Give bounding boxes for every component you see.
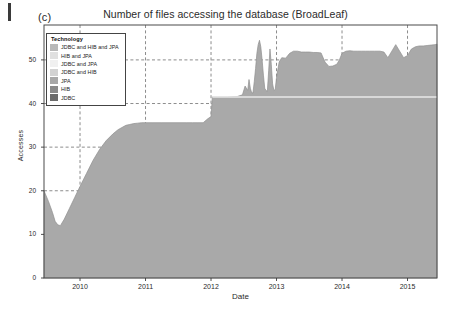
x-tick-label: 2012 — [194, 283, 228, 290]
legend-item-label: JDBC and JPA — [61, 61, 97, 67]
legend-item: JDBC — [50, 93, 122, 101]
y-tick-label: 30 — [20, 143, 36, 150]
x-tick-label: 2014 — [325, 283, 359, 290]
legend-item-label: HIB and JPA — [61, 53, 92, 59]
y-tick-label: 0 — [20, 274, 36, 281]
legend-item: HIB and JPA — [50, 51, 122, 59]
legend-color-swatch — [50, 44, 58, 51]
legend-item: JDBC and HIB and JPA — [50, 43, 122, 51]
figure-panel: (c) Number of files accessing the databa… — [0, 0, 451, 309]
x-tick-label: 2010 — [63, 283, 97, 290]
y-tick-label: 40 — [20, 100, 36, 107]
legend-item-label: HIB — [61, 86, 70, 92]
legend-item-label: JDBC and HIB — [61, 69, 97, 75]
legend-color-swatch — [50, 86, 58, 93]
y-tick-label: 10 — [20, 230, 36, 237]
y-tick-label: 20 — [20, 187, 36, 194]
legend-color-swatch — [50, 77, 58, 84]
legend-item: JDBC and HIB — [50, 68, 122, 76]
x-tick-label: 2013 — [260, 283, 294, 290]
y-tick-label: 50 — [20, 56, 36, 63]
legend-title: Technology — [51, 36, 122, 42]
legend-item-label: JDBC — [61, 95, 75, 101]
legend-item: HIB — [50, 85, 122, 93]
legend-item: JPA — [50, 77, 122, 85]
x-tick-label: 2011 — [129, 283, 163, 290]
legend-item-label: JPA — [61, 78, 71, 84]
chart-legend: Technology JDBC and HIB and JPAHIB and J… — [46, 33, 126, 106]
legend-color-swatch — [50, 69, 58, 76]
legend-color-swatch — [50, 94, 58, 101]
legend-item-label: JDBC and HIB and JPA — [61, 44, 119, 50]
legend-color-swatch — [50, 52, 58, 59]
legend-item: JDBC and JPA — [50, 60, 122, 68]
legend-color-swatch — [50, 60, 58, 67]
x-tick-label: 2015 — [391, 283, 425, 290]
